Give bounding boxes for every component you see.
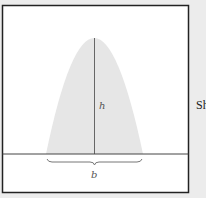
side-caption: Sh	[196, 98, 206, 113]
parabolic-segment-diagram: h b	[0, 0, 206, 198]
height-label: h	[99, 100, 105, 111]
base-label: b	[91, 169, 97, 180]
